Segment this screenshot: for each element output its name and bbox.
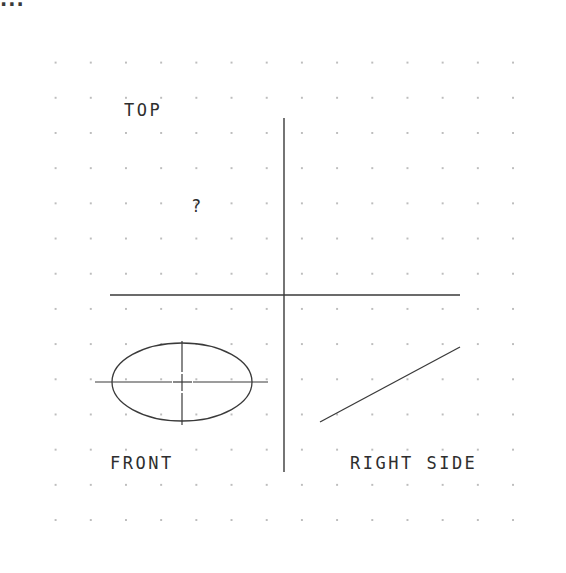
drawing-canvas: ... TOP ? FRONT RIGHT SIDE [0, 0, 566, 573]
technical-drawing-svg [0, 0, 566, 573]
unknown-view-question-mark: ? [191, 196, 201, 216]
top-view-label: TOP [124, 100, 162, 120]
right-side-view-diagonal-line [320, 347, 460, 422]
right-side-view-label: RIGHT SIDE [350, 453, 477, 473]
front-view-label: FRONT [110, 453, 174, 473]
